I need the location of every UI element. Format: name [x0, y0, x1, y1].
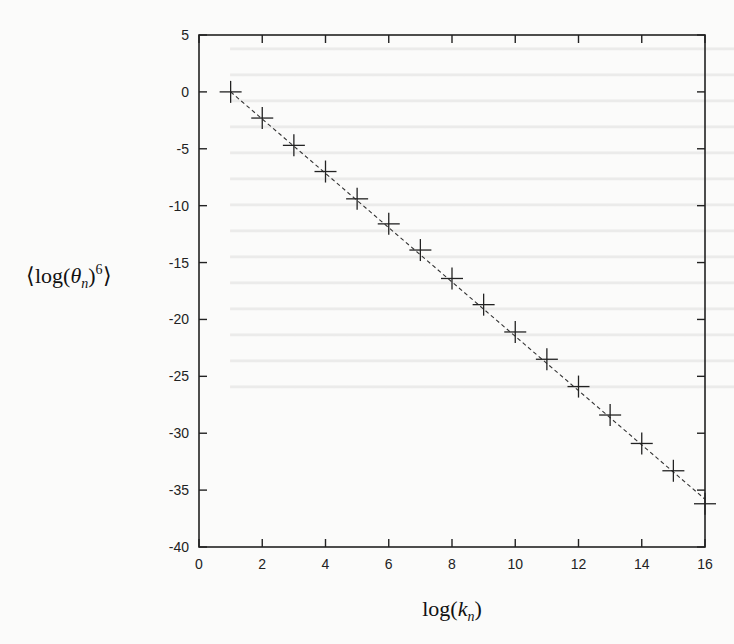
- data-point-marker: [441, 267, 463, 289]
- y-tick-label: -10: [169, 198, 189, 214]
- plot-frame: [199, 35, 705, 547]
- y-tick-label: -15: [169, 255, 189, 271]
- plot-border: [199, 35, 705, 547]
- axis-ticks: 024681012141650-5-10-15-20-25-30-35-40: [169, 27, 713, 572]
- x-axis-title: log(kn): [422, 596, 482, 624]
- x-tick-label: 2: [258, 556, 266, 572]
- data-point-marker: [504, 321, 526, 343]
- scatter-chart: 024681012141650-5-10-15-20-25-30-35-40 l…: [0, 0, 734, 644]
- y-tick-label: -30: [169, 425, 189, 441]
- data-point-marker: [315, 161, 337, 183]
- data-point-marker: [473, 294, 495, 316]
- data-point-marker: [694, 493, 716, 515]
- data-point-marker: [568, 376, 590, 398]
- y-tick-label: -35: [169, 482, 189, 498]
- data-point-marker: [409, 239, 431, 261]
- x-tick-label: 14: [634, 556, 650, 572]
- data-point-marker: [631, 432, 653, 454]
- x-tick-label: 4: [322, 556, 330, 572]
- y-axis-title: ⟨log(θn)6⟩: [26, 262, 112, 291]
- x-tick-label: 16: [697, 556, 713, 572]
- data-point-marker: [599, 404, 621, 426]
- y-tick-label: -40: [169, 539, 189, 555]
- data-point-marker: [662, 460, 684, 482]
- data-point-marker: [378, 213, 400, 235]
- x-tick-label: 0: [195, 556, 203, 572]
- y-tick-label: -5: [177, 141, 190, 157]
- y-tick-label: -25: [169, 368, 189, 384]
- x-tick-label: 8: [448, 556, 456, 572]
- data-point-marker: [536, 348, 558, 370]
- x-tick-label: 12: [571, 556, 587, 572]
- y-tick-label: 5: [181, 27, 189, 43]
- fit-line: [231, 92, 705, 499]
- fit-line-segment: [231, 92, 705, 499]
- y-tick-label: 0: [181, 84, 189, 100]
- data-point-marker: [220, 81, 242, 103]
- x-tick-label: 10: [507, 556, 523, 572]
- y-tick-label: -20: [169, 311, 189, 327]
- x-tick-label: 6: [385, 556, 393, 572]
- data-markers: [220, 81, 716, 515]
